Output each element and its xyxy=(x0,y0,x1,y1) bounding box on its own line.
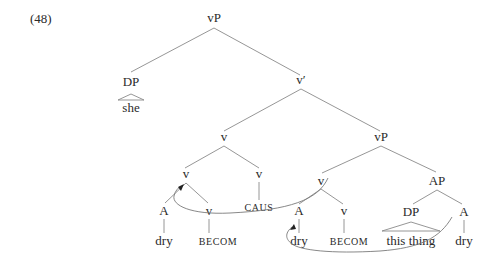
branch-v-vinner xyxy=(185,146,224,168)
branch-v-vcaus xyxy=(224,146,259,168)
branch-ap-dp xyxy=(413,190,437,204)
branch-vinner-v xyxy=(186,183,208,203)
branch-root-dp xyxy=(131,28,214,72)
arrowhead-lower xyxy=(290,224,296,230)
word-she: she xyxy=(122,100,140,115)
branch-vbar-v xyxy=(224,89,301,131)
node-v-becom-left: v xyxy=(206,203,213,218)
word-dry-right: dry xyxy=(455,233,473,248)
node-dp-spec: DP xyxy=(123,74,140,89)
branch-ap-a xyxy=(437,190,462,204)
node-a-left: A xyxy=(159,203,169,218)
node-v-becom-mid: v xyxy=(341,203,348,218)
node-a-mid: A xyxy=(294,203,304,218)
node-a-right: A xyxy=(459,204,469,219)
node-vbar: v′ xyxy=(296,72,306,87)
node-dp-ap: DP xyxy=(403,204,420,219)
node-v-inner: v xyxy=(183,166,190,181)
word-becom-mid: BECOM xyxy=(330,236,369,247)
word-becom-left: BECOM xyxy=(199,236,238,247)
syntax-tree: (48) vP DP she v′ v v v CAUS A dry v BEC… xyxy=(0,0,497,259)
branch-root-vbar xyxy=(214,28,300,75)
word-dry-mid: dry xyxy=(290,233,308,248)
branch-vlower-v xyxy=(321,189,343,204)
node-v-caus: v xyxy=(256,166,263,181)
node-vp-lower: vP xyxy=(374,129,388,144)
node-v-complex: v xyxy=(221,129,228,144)
example-number: (48) xyxy=(30,11,52,26)
node-root-vp: vP xyxy=(207,10,221,25)
node-ap: AP xyxy=(429,173,446,188)
branch-vbar-vp xyxy=(301,89,380,131)
word-dry-left: dry xyxy=(155,233,173,248)
triangle-dp-ap xyxy=(382,222,440,231)
branch-vp-v xyxy=(322,146,381,173)
branch-vp-ap xyxy=(381,146,436,172)
